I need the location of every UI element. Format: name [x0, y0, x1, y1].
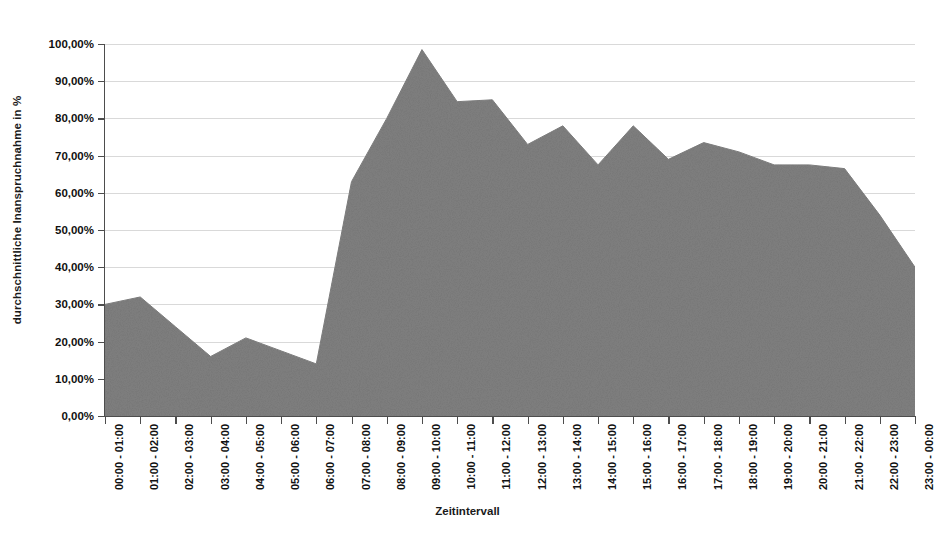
x-axis-tick: [246, 417, 247, 424]
chart-container: durchschnittliche Inanspruchnahme in % 0…: [0, 0, 935, 533]
x-axis-tick-label: 05:00 - 06:00: [287, 424, 303, 504]
y-axis-tick: [98, 156, 105, 157]
x-axis-tick: [528, 417, 529, 424]
x-axis-tick: [774, 417, 775, 424]
y-axis-tick-label: 50,00%: [55, 224, 94, 236]
x-axis-tick: [175, 417, 176, 424]
x-axis-tick: [457, 417, 458, 424]
y-axis-tick: [98, 416, 105, 417]
x-axis-tick-label: 06:00 - 07:00: [322, 424, 338, 504]
y-axis-tick-label: 20,00%: [55, 336, 94, 348]
x-axis-tick-label: 20:00 - 21:00: [815, 424, 831, 504]
y-axis-title-label: durchschnittliche Inanspruchnahme in %: [11, 96, 23, 325]
y-axis-tick-label: 80,00%: [55, 112, 94, 124]
x-axis-tick-label: 23:00 - 00:00: [921, 424, 935, 504]
y-axis-tick-label: 90,00%: [55, 75, 94, 87]
y-axis-tick: [98, 193, 105, 194]
y-axis-title: durchschnittliche Inanspruchnahme in %: [0, 0, 34, 420]
x-axis-tick: [809, 417, 810, 424]
y-axis-tick: [98, 304, 105, 305]
x-axis-tick-label: 22:00 - 23:00: [886, 424, 902, 504]
x-axis-tick-label: 00:00 - 01:00: [111, 424, 127, 504]
y-axis-tick-label: 0,00%: [61, 410, 94, 422]
y-axis-tick-label: 40,00%: [55, 261, 94, 273]
x-axis-tick-label: 11:00 - 12:00: [498, 424, 514, 504]
y-axis-tick: [98, 118, 105, 119]
y-axis-tick: [98, 379, 105, 380]
y-axis-tick: [98, 81, 105, 82]
x-axis-tick: [880, 417, 881, 424]
x-axis-tick-label: 13:00 - 14:00: [569, 424, 585, 504]
x-axis-tick-label: 10:00 - 11:00: [463, 424, 479, 504]
x-axis-tick: [387, 417, 388, 424]
x-axis-tick-label: 09:00 - 10:00: [428, 424, 444, 504]
y-axis-tick-labels: 0,00%10,00%20,00%30,00%40,00%50,00%60,00…: [34, 0, 100, 420]
x-axis-tick-label: 12:00 - 13:00: [534, 424, 550, 504]
y-axis-tick: [98, 230, 105, 231]
x-axis-tick: [845, 417, 846, 424]
x-axis-tick: [704, 417, 705, 424]
y-axis-tick-label: 10,00%: [55, 373, 94, 385]
x-axis-tick-label: 03:00 - 04:00: [217, 424, 233, 504]
x-axis-tick: [422, 417, 423, 424]
x-axis-tick-label: 02:00 - 03:00: [181, 424, 197, 504]
x-axis-line: [104, 416, 916, 417]
x-axis-tick: [915, 417, 916, 424]
x-axis-tick-label: 01:00 - 02:00: [146, 424, 162, 504]
x-axis-tick-label: 07:00 - 08:00: [358, 424, 374, 504]
y-axis-tick-label: 30,00%: [55, 298, 94, 310]
y-axis-tick: [98, 267, 105, 268]
plot-area: [105, 44, 915, 416]
x-axis-tick-label: 19:00 - 20:00: [780, 424, 796, 504]
x-axis-tick: [316, 417, 317, 424]
x-axis-tick: [492, 417, 493, 424]
x-axis-tick: [633, 417, 634, 424]
x-axis-tick: [281, 417, 282, 424]
y-axis-tick: [98, 342, 105, 343]
x-axis-tick: [140, 417, 141, 424]
area-series: [105, 44, 915, 416]
x-axis-tick-label: 18:00 - 19:00: [745, 424, 761, 504]
x-axis-tick: [352, 417, 353, 424]
x-axis-tick: [211, 417, 212, 424]
y-axis-tick-label: 70,00%: [55, 150, 94, 162]
x-axis-title: Zeitintervall: [0, 505, 935, 517]
x-axis-tick-label: 16:00 - 17:00: [674, 424, 690, 504]
x-axis-tick: [563, 417, 564, 424]
x-axis-tick-label: 14:00 - 15:00: [604, 424, 620, 504]
x-axis-tick-labels: 00:00 - 01:0001:00 - 02:0002:00 - 03:000…: [0, 424, 935, 504]
x-axis-tick-label: 04:00 - 05:00: [252, 424, 268, 504]
y-axis-tick-label: 100,00%: [49, 38, 94, 50]
x-axis-tick-label: 08:00 - 09:00: [393, 424, 409, 504]
x-axis-tick-label: 21:00 - 22:00: [851, 424, 867, 504]
x-axis-tick: [739, 417, 740, 424]
y-axis-tick: [98, 44, 105, 45]
x-axis-tick: [668, 417, 669, 424]
x-axis-tick: [598, 417, 599, 424]
x-axis-tick-label: 17:00 - 18:00: [710, 424, 726, 504]
x-axis-tick: [105, 417, 106, 424]
y-axis-tick-label: 60,00%: [55, 187, 94, 199]
x-axis-tick-label: 15:00 - 16:00: [639, 424, 655, 504]
